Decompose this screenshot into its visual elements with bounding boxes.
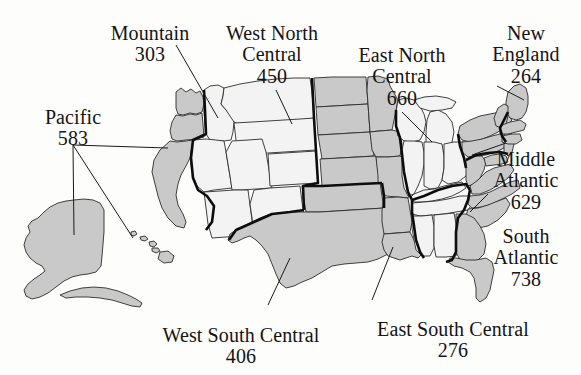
region-label-east-south-central: East South Central 276 <box>348 298 558 375</box>
region-name-mountain: Mountain <box>111 22 190 44</box>
region-name-west-north-central: West North Central <box>226 22 318 65</box>
region-label-east-north-central: East North Central 660 <box>338 24 466 130</box>
region-label-south-atlantic: South Atlantic 738 <box>474 205 578 311</box>
region-name-west-south-central: West South Central <box>163 324 320 346</box>
region-name-middle-atlantic: Middle Atlantic <box>493 148 558 191</box>
region-name-east-south-central: East South Central <box>377 318 529 340</box>
region-value-pacific: 583 <box>14 128 132 149</box>
region-name-east-north-central: East North Central <box>358 44 445 87</box>
region-value-east-south-central: 276 <box>348 340 558 361</box>
region-label-west-south-central: West South Central 406 <box>130 304 352 375</box>
region-name-south-atlantic: South Atlantic <box>493 225 558 268</box>
region-value-west-north-central: 450 <box>206 66 338 87</box>
region-value-mountain: 303 <box>86 44 214 65</box>
region-label-west-north-central: West North Central 450 <box>206 2 338 108</box>
region-label-pacific: Pacific 583 <box>14 86 132 171</box>
region-value-west-south-central: 406 <box>130 346 352 367</box>
region-label-mountain: Mountain 303 <box>86 2 214 87</box>
region-value-south-atlantic: 738 <box>474 269 578 290</box>
region-name-pacific: Pacific <box>45 106 101 128</box>
region-label-new-england: New England 264 <box>476 2 576 108</box>
region-value-east-north-central: 660 <box>338 88 466 109</box>
region-value-new-england: 264 <box>476 66 576 87</box>
census-division-map-figure: .st { stroke: #2b2b2b; stroke-width: 0.9… <box>0 0 581 375</box>
region-name-new-england: New England <box>492 22 559 65</box>
